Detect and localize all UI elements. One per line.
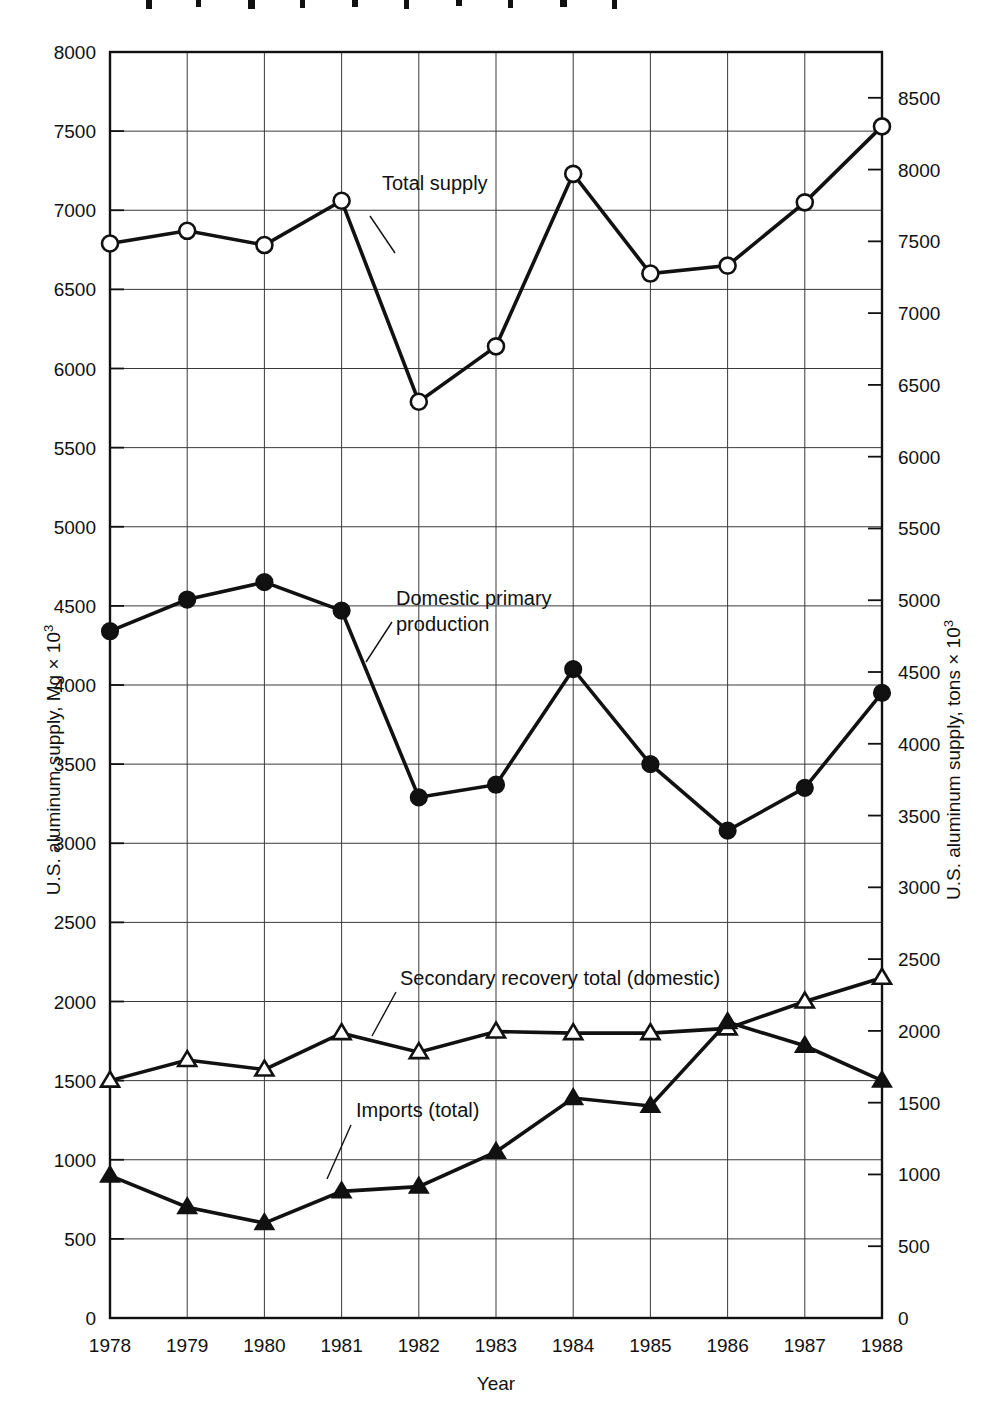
data-point-marker <box>874 118 890 134</box>
data-point-marker <box>411 394 427 410</box>
x-axis-tick-label: 1978 <box>89 1335 131 1356</box>
y-axis-left-tick-label: 6500 <box>54 279 96 300</box>
annotation-imports: Imports (total) <box>356 1099 479 1121</box>
y-axis-left-tick-label: 0 <box>85 1308 96 1329</box>
data-point-marker <box>797 194 813 210</box>
y-axis-right-tick-label: 7500 <box>898 231 940 252</box>
x-axis-tick-label: 1983 <box>475 1335 517 1356</box>
chart-figure: 0500100015002000250030003500400045005000… <box>0 0 990 1404</box>
y-axis-left-tick-label: 1500 <box>54 1071 96 1092</box>
y-axis-right-tick-label: 6000 <box>898 447 940 468</box>
y-axis-right-tick-label: 7000 <box>898 303 940 324</box>
x-axis-tick-label: 1984 <box>552 1335 595 1356</box>
y-axis-left-tick-label: 2000 <box>54 992 96 1013</box>
data-point-marker <box>720 823 736 839</box>
data-point-marker <box>565 661 581 677</box>
data-point-marker <box>642 756 658 772</box>
data-point-marker <box>488 777 504 793</box>
x-axis-tick-label: 1982 <box>398 1335 440 1356</box>
y-axis-left-tick-label: 5500 <box>54 438 96 459</box>
data-point-marker <box>102 235 118 251</box>
x-axis-title: Year <box>477 1373 516 1394</box>
aluminum-supply-line-chart: 0500100015002000250030003500400045005000… <box>0 0 990 1404</box>
y-axis-left-tick-label: 7000 <box>54 200 96 221</box>
data-point-marker <box>720 258 736 274</box>
x-axis-tick-label: 1980 <box>243 1335 285 1356</box>
y-axis-right-tick-label: 2500 <box>898 949 940 970</box>
y-axis-left-tick-label: 6000 <box>54 359 96 380</box>
data-point-marker <box>334 193 350 209</box>
annotation-secondary-recovery: Secondary recovery total (domestic) <box>400 967 720 989</box>
data-point-marker <box>334 603 350 619</box>
y-axis-left-tick-label: 8000 <box>54 42 96 63</box>
data-point-marker <box>488 338 504 354</box>
data-point-marker <box>256 574 272 590</box>
x-axis-tick-label: 1979 <box>166 1335 208 1356</box>
y-axis-left-tick-label: 500 <box>64 1229 96 1250</box>
annotation-domestic-primary-line2: production <box>396 613 489 635</box>
x-axis-tick-label: 1987 <box>784 1335 826 1356</box>
data-point-marker <box>642 266 658 282</box>
y-axis-right-tick-label: 4500 <box>898 662 940 683</box>
data-point-marker <box>411 789 427 805</box>
data-point-marker <box>874 685 890 701</box>
y-axis-left-tick-label: 2500 <box>54 912 96 933</box>
y-axis-left-tick-label: 4500 <box>54 596 96 617</box>
data-point-marker <box>102 623 118 639</box>
x-axis-tick-label: 1981 <box>320 1335 362 1356</box>
y-axis-left-tick-label: 7500 <box>54 121 96 142</box>
y-axis-right-tick-label: 5000 <box>898 590 940 611</box>
y-axis-right-tick-label: 500 <box>898 1236 930 1257</box>
annotation-domestic-primary-line1: Domestic primary <box>396 587 552 609</box>
x-axis-tick-label: 1988 <box>861 1335 903 1356</box>
annotation-total-supply: Total supply <box>382 172 488 194</box>
y-axis-right-tick-label: 8500 <box>898 88 940 109</box>
x-axis-tick-label: 1986 <box>706 1335 748 1356</box>
data-point-marker <box>179 592 195 608</box>
y-axis-right-tick-label: 3500 <box>898 806 940 827</box>
y-axis-right-tick-label: 6500 <box>898 375 940 396</box>
data-point-marker <box>179 223 195 239</box>
y-axis-right-tick-label: 5500 <box>898 518 940 539</box>
y-axis-left-tick-label: 1000 <box>54 1150 96 1171</box>
y-axis-right-tick-label: 1500 <box>898 1093 940 1114</box>
data-point-marker <box>256 237 272 253</box>
y-axis-left-tick-label: 5000 <box>54 517 96 538</box>
y-axis-right-tick-label: 2000 <box>898 1021 940 1042</box>
y-axis-left-title: U.S. aluminum supply, Mg × 103 <box>41 625 64 895</box>
data-point-marker <box>565 166 581 182</box>
y-axis-right-tick-label: 4000 <box>898 734 940 755</box>
y-axis-right-title: U.S. aluminum supply, tons × 103 <box>941 620 964 900</box>
data-point-marker <box>797 780 813 796</box>
y-axis-right-tick-label: 3000 <box>898 877 940 898</box>
y-axis-right-tick-label: 1000 <box>898 1164 940 1185</box>
x-axis-tick-label: 1985 <box>629 1335 671 1356</box>
y-axis-right-tick-label: 8000 <box>898 160 940 181</box>
y-axis-right-tick-label: 0 <box>898 1308 909 1329</box>
